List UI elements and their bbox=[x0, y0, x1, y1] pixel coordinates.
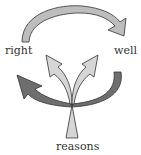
fan-arrow-left bbox=[46, 55, 72, 104]
label-reasons: reasons bbox=[56, 141, 99, 152]
bottom-stem bbox=[66, 105, 78, 138]
top-arc-arrow bbox=[22, 6, 126, 42]
label-right: right bbox=[5, 45, 32, 56]
cycle-diagram-graphic bbox=[0, 0, 141, 155]
label-well: well bbox=[114, 45, 137, 56]
fan-arrow-right bbox=[72, 55, 98, 104]
diagram-canvas: right well reasons bbox=[0, 0, 141, 155]
